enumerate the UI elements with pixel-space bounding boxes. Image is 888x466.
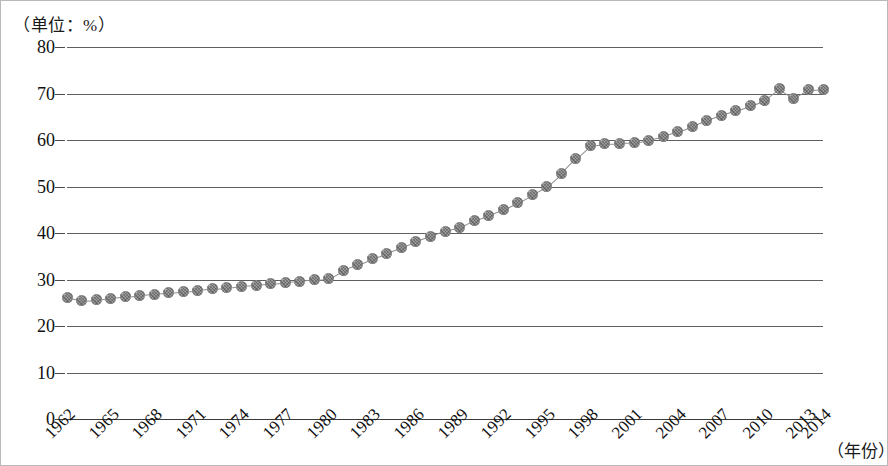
data-point-marker <box>163 287 174 298</box>
data-point-marker <box>498 204 509 215</box>
y-axis-tick-mark <box>55 326 65 327</box>
data-point-marker <box>178 286 189 297</box>
data-point-marker <box>454 222 465 233</box>
data-point-marker <box>105 293 116 304</box>
data-point-marker <box>469 215 480 226</box>
y-axis-tick-label: 0 <box>46 409 55 430</box>
y-axis-labels: 80706050403020100 <box>1 47 61 419</box>
y-axis-tick-mark <box>55 187 65 188</box>
y-axis-tick-label: 60 <box>37 130 55 151</box>
data-point-marker <box>687 121 698 132</box>
data-point-marker <box>91 294 102 305</box>
x-axis-title: （年份） <box>827 437 888 462</box>
data-point-marker <box>309 274 320 285</box>
y-axis-tick-label: 80 <box>37 37 55 58</box>
y-axis-tick-label: 30 <box>37 269 55 290</box>
data-point-marker <box>818 84 829 95</box>
chart-page: （单位：%） 80706050403020100 196219651968197… <box>0 0 888 466</box>
data-point-marker <box>643 135 654 146</box>
data-point-marker <box>76 295 87 306</box>
data-point-marker <box>236 281 247 292</box>
data-point-marker <box>251 280 262 291</box>
data-point-marker <box>716 110 727 121</box>
y-axis-tick-label: 50 <box>37 176 55 197</box>
data-point-marker <box>440 226 451 237</box>
data-point-marker <box>745 100 756 111</box>
data-point-marker <box>570 153 581 164</box>
y-axis-tick-label: 40 <box>37 223 55 244</box>
plot-area <box>67 47 823 419</box>
data-point-marker <box>323 273 334 284</box>
data-point-marker <box>280 277 291 288</box>
y-axis-tick-mark <box>55 94 65 95</box>
data-point-marker <box>759 95 770 106</box>
gridline-0 <box>67 419 823 420</box>
data-point-marker <box>381 248 392 259</box>
data-point-marker <box>599 138 610 149</box>
data-point-marker <box>294 276 305 287</box>
data-point-marker <box>788 93 799 104</box>
data-point-marker <box>221 282 232 293</box>
y-axis-unit-caption: （单位：%） <box>13 11 115 36</box>
data-point-marker <box>149 289 160 300</box>
data-point-marker <box>803 84 814 95</box>
data-point-marker <box>556 168 567 179</box>
data-point-marker <box>338 265 349 276</box>
data-point-marker <box>701 115 712 126</box>
data-point-marker <box>410 236 421 247</box>
data-point-marker <box>512 197 523 208</box>
y-axis-tick-mark <box>55 373 65 374</box>
data-point-marker <box>483 210 494 221</box>
data-point-marker <box>541 181 552 192</box>
data-point-marker <box>425 231 436 242</box>
y-axis-tick-label: 70 <box>37 83 55 104</box>
data-point-marker <box>62 292 73 303</box>
data-series-line <box>67 47 823 419</box>
y-axis-tick-label: 20 <box>37 316 55 337</box>
data-point-marker <box>192 285 203 296</box>
y-axis-tick-mark <box>55 140 65 141</box>
data-point-marker <box>396 242 407 253</box>
y-axis-tick-label: 10 <box>37 362 55 383</box>
data-point-marker <box>120 291 131 302</box>
data-point-marker <box>629 137 640 148</box>
data-point-marker <box>730 105 741 116</box>
data-point-marker <box>352 259 363 270</box>
data-point-marker <box>614 138 625 149</box>
y-axis-tick-mark <box>55 233 65 234</box>
y-axis-tick-mark <box>55 47 65 48</box>
data-point-marker <box>658 131 669 142</box>
data-point-marker <box>265 278 276 289</box>
y-axis-tick-mark <box>55 280 65 281</box>
data-point-marker <box>207 283 218 294</box>
y-axis-tick-mark <box>55 419 65 420</box>
data-point-marker <box>134 290 145 301</box>
data-point-marker <box>672 126 683 137</box>
data-point-marker <box>367 253 378 264</box>
data-point-marker <box>585 140 596 151</box>
data-point-marker <box>527 189 538 200</box>
